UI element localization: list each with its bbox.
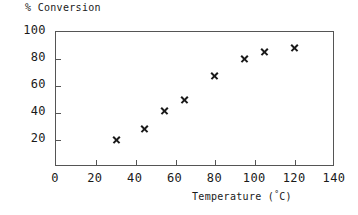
- scatter-chart: % Conversion 20406080100 020406080100120…: [0, 0, 358, 215]
- data-point-marker[interactable]: [290, 43, 299, 52]
- y-axis-label: % Conversion: [25, 2, 101, 13]
- x-axis-tick-mark: [295, 160, 296, 165]
- x-axis-tick-label: 140: [311, 171, 357, 185]
- y-axis-tick-label: 80: [4, 50, 46, 64]
- data-point-marker[interactable]: [112, 135, 121, 144]
- y-axis-tick-label: 60: [4, 77, 46, 91]
- x-axis-label: Temperature (°C): [192, 190, 292, 202]
- x-axis-label-unit: C): [279, 191, 292, 202]
- data-point-marker[interactable]: [240, 54, 249, 63]
- data-point-marker[interactable]: [210, 71, 219, 80]
- x-axis-tick-mark: [215, 160, 216, 165]
- y-axis-tick-label: 40: [4, 104, 46, 118]
- data-point-marker[interactable]: [140, 124, 149, 133]
- x-axis-tick-mark: [255, 160, 256, 165]
- x-axis-tick-mark: [176, 160, 177, 165]
- x-axis-tick-mark: [136, 160, 137, 165]
- data-point-marker[interactable]: [180, 95, 189, 104]
- y-axis-tick-label: 100: [4, 23, 46, 37]
- y-axis-tick-mark: [56, 86, 61, 87]
- y-axis-tick-mark: [56, 59, 61, 60]
- y-axis-tick-label: 20: [4, 131, 46, 145]
- data-point-marker[interactable]: [260, 47, 269, 56]
- x-axis-tick-mark: [96, 160, 97, 165]
- y-axis-tick-mark: [56, 113, 61, 114]
- x-axis-label-text: Temperature (: [192, 191, 274, 202]
- y-axis-tick-mark: [56, 140, 61, 141]
- data-point-marker[interactable]: [160, 106, 169, 115]
